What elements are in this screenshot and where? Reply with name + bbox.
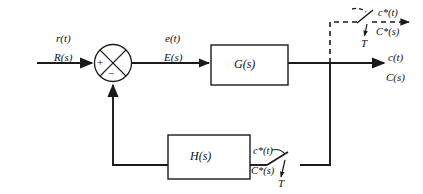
summing-plus-sign: + xyxy=(97,57,103,68)
error-time-label: e(t) xyxy=(165,33,180,44)
diagram-vector-layer xyxy=(0,0,423,194)
summing-minus-sign: − xyxy=(108,68,114,79)
bottom-sampler-period-label: T xyxy=(278,178,284,189)
bottom-sampler-laplace-label: C*(s) xyxy=(251,166,274,177)
feedback-block-label: H(s) xyxy=(190,150,211,162)
error-laplace-label: E(s) xyxy=(164,52,182,63)
top-sampler-period-label: T xyxy=(361,38,367,49)
forward-block-label: G(s) xyxy=(234,58,255,70)
feedback-return-line xyxy=(300,63,330,165)
top-sampler-time-label: c*(t) xyxy=(378,8,398,19)
output-laplace-label: C(s) xyxy=(386,72,405,83)
input-laplace-label: R(s) xyxy=(54,52,72,63)
block-diagram-canvas: r(t) R(s) + − e(t) E(s) G(s) H(s) c(t) C… xyxy=(0,0,423,194)
feedback-to-summing-line xyxy=(113,85,168,165)
input-time-label: r(t) xyxy=(56,33,71,44)
output-time-label: c(t) xyxy=(388,52,403,63)
bottom-sampler-time-label: c*(t) xyxy=(253,146,273,157)
top-sampler-laplace-label: C*(s) xyxy=(376,27,399,38)
